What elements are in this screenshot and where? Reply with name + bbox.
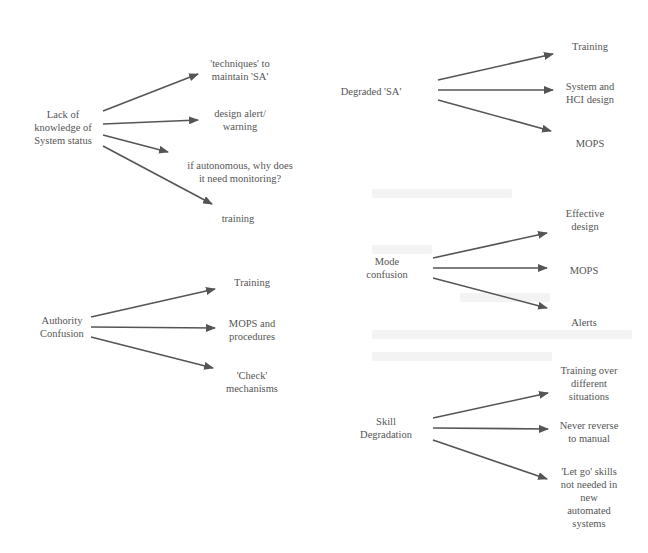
node-mops-procedures: MOPS and procedures [229, 317, 275, 343]
node-mops-sa: MOPS [576, 137, 605, 150]
diagram-canvas: Lack of knowledge of System status 'tech… [0, 0, 648, 553]
arrow-skill-degradation [433, 428, 548, 429]
arrow-lack-of-knowledge [103, 120, 198, 124]
node-check-mechanisms: 'Check' mechanisms [226, 369, 278, 395]
arrow-degraded-sa [438, 100, 551, 131]
node-training-sa: Training [572, 40, 608, 53]
node-skill-degradation: Skill Degradation [360, 415, 412, 441]
arrow-mode-confusion [433, 278, 547, 308]
node-training-authority: Training [234, 276, 270, 289]
node-if-autonomous-why-monitoring: if autonomous, why does it need monitori… [187, 159, 293, 185]
arrow-degraded-sa [438, 54, 553, 80]
node-training-lowercase: training [222, 212, 255, 225]
arrow-lack-of-knowledge [103, 135, 168, 152]
arrow-lack-of-knowledge [103, 74, 198, 111]
node-effective-design: Effective design [566, 207, 604, 233]
node-mops-mode: MOPS [570, 264, 599, 277]
arrow-authority-confusion [91, 289, 215, 317]
node-training-different-situations: Training over different situations [560, 364, 617, 403]
arrow-authority-confusion [91, 327, 215, 328]
node-mode-confusion: Mode confusion [366, 255, 407, 281]
arrow-mode-confusion [433, 233, 547, 258]
arrow-skill-degradation [433, 440, 547, 479]
arrow-authority-confusion [91, 337, 213, 368]
node-alerts: Alerts [571, 316, 597, 329]
node-lack-of-knowledge: Lack of knowledge of System status [34, 108, 91, 147]
arrows-layer [0, 0, 648, 553]
node-system-hci-design: System and HCI design [566, 80, 615, 106]
node-authority-confusion: Authority Confusion [40, 314, 84, 340]
node-degraded-sa: Degraded 'SA' [341, 85, 402, 98]
node-let-go-skills: 'Let go' skills not needed in new automa… [561, 465, 618, 530]
node-techniques-maintain-sa: 'techniques' to maintain 'SA' [210, 57, 269, 83]
arrow-skill-degradation [433, 393, 548, 418]
node-never-reverse-manual: Never reverse to manual [560, 419, 619, 445]
node-design-alert-warning: design alert/ warning [214, 107, 266, 133]
